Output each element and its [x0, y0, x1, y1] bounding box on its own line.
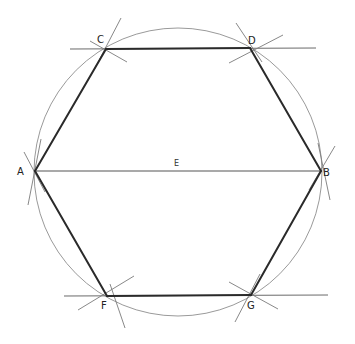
hexagon-edge-fa: [35, 171, 107, 296]
circumscribed-circle: [34, 28, 322, 316]
point-label-d: D: [248, 35, 256, 46]
hexagon: [35, 48, 321, 296]
point-label-g: G: [247, 300, 255, 311]
diagram-canvas: A B C D E F G: [0, 0, 355, 344]
construction-mark-g-2: [235, 274, 260, 322]
point-label-b: B: [323, 167, 330, 178]
hexagon-edge-cd: [106, 48, 250, 49]
hexagon-construction-diagram: A B C D E F G: [0, 0, 355, 344]
point-label-f: F: [101, 300, 107, 311]
point-label-e-center: E: [174, 159, 179, 168]
hexagon-edge-ac: [35, 49, 106, 171]
hexagon-edge-bg: [251, 171, 321, 295]
construction-mark-f-2: [110, 284, 125, 328]
point-label-a: A: [17, 166, 24, 177]
construction-mark-c-2: [90, 41, 127, 62]
hexagon-edge-gf: [107, 295, 251, 296]
construction-arc-marks: [24, 18, 335, 328]
point-label-c: C: [97, 34, 104, 45]
hexagon-edge-db: [250, 48, 321, 171]
